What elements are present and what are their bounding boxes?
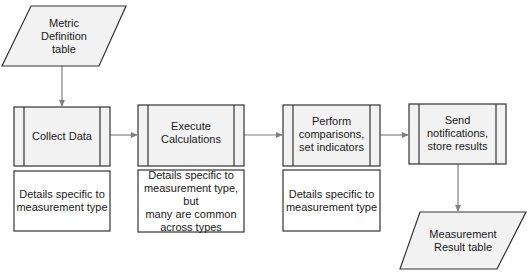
send-notifications-label: Send notifications, store results — [419, 104, 496, 162]
collect-data-label: Collect Data — [24, 107, 100, 166]
execute-calculations-note: Details specific to measurement type, bu… — [138, 170, 244, 232]
perform-comparisons-note: Details specific to measurement type — [283, 170, 380, 231]
execute-calculations-label: Execute Calculations — [148, 105, 234, 161]
perform-comparisons-label: Perform comparisons, set indicators — [293, 105, 370, 163]
measurement-result-table-label: Measurement Result table — [420, 212, 506, 269]
metric-definition-table-label: Metric Definition table — [20, 6, 108, 66]
connectors — [62, 66, 458, 211]
collect-data-note: Details specific to measurement type — [14, 171, 110, 231]
